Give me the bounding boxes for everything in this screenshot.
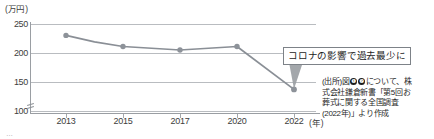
chart-screenshot: (万円) 250 200 150 100 [0, 0, 434, 139]
callout-annotation: コロナの影響で過去最少に [283, 47, 411, 65]
callout-pointer [0, 0, 434, 139]
